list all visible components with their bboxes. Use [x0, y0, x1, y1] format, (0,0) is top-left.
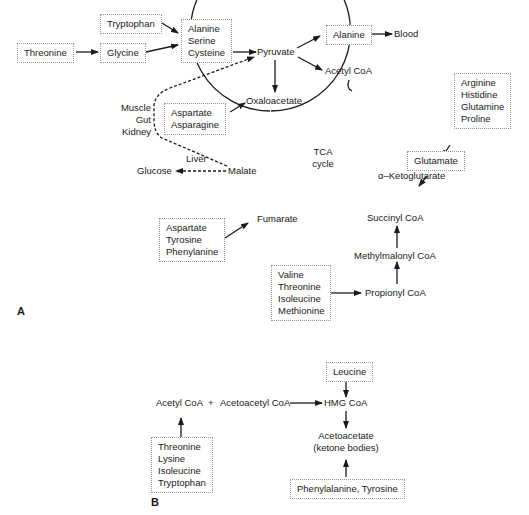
box-aspartate-asparagine: Aspartate Asparagine [164, 103, 226, 135]
label: Tyrosine [166, 234, 218, 246]
node-acetoacetate: Acetoacetate (ketone bodies) [306, 430, 386, 454]
label: Histidine [461, 89, 504, 101]
box-leucine: Leucine [326, 362, 373, 382]
box-arginine-histidine-glutamine-proline: Arginine Histidine Glutamine Proline [454, 73, 511, 129]
label: Threonine [24, 47, 67, 59]
node-acetoacetyl-coa: Acetoacetyl CoA [220, 397, 290, 409]
cycle-label: cycle [308, 158, 338, 170]
panel-label-a: A [17, 305, 25, 317]
box-aspartate-tyrosine-phenylanine: Aspartate Tyrosine Phenylanine [159, 218, 225, 262]
node-oxaloacetate: Oxaloacetate [246, 95, 302, 107]
label: Glycine [107, 47, 139, 59]
node-alpha-ketoglutarate: α–Ketoglutarate [378, 170, 445, 182]
plus-sign: + [208, 397, 214, 409]
node-pyruvate: Pyruvate [257, 46, 295, 58]
tissue-kidney: Kidney [113, 126, 151, 138]
label: Aspartate [171, 107, 219, 119]
label: Tryptophan [107, 18, 155, 30]
box-alanine: Alanine [326, 25, 372, 45]
label: Valine [278, 269, 324, 281]
node-propionyl-coa: Propionyl CoA [365, 287, 426, 299]
label: Alanine [333, 29, 365, 41]
label: Leucine [333, 366, 366, 378]
node-blood: Blood [394, 28, 418, 40]
label: Glutamate [414, 155, 458, 167]
tca-cycle-label: TCA cycle [308, 146, 338, 170]
label-liver: Liver [186, 153, 207, 165]
acetoacetate-label: Acetoacetate [306, 430, 386, 442]
tca-label: TCA [308, 146, 338, 158]
node-b-acetyl-coa: Acetyl CoA [156, 397, 203, 409]
label: Serine [188, 35, 225, 47]
tissue-muscle: Muscle [113, 102, 151, 114]
node-glucose: Glucose [137, 165, 172, 177]
label: Isoleucine [158, 465, 206, 477]
label: Proline [461, 113, 504, 125]
node-fumarate: Fumarate [257, 213, 298, 225]
label: Glutamine [461, 101, 504, 113]
box-tryptophan: Tryptophan [100, 14, 162, 34]
panel-label-b: B [151, 496, 159, 508]
ketone-bodies-label: (ketone bodies) [306, 442, 386, 454]
node-hmg-coa: HMG CoA [324, 397, 367, 409]
label: Phenylalanine, Tyrosine [297, 483, 398, 495]
box-phenylalanine-tyrosine: Phenylalanine, Tyrosine [290, 479, 405, 499]
box-alanine-serine-cysteine: Alanine Serine Cysteine [181, 19, 232, 63]
label: Threonine [158, 441, 206, 453]
box-glycine: Glycine [100, 43, 146, 63]
tissue-gut: Gut [113, 114, 151, 126]
box-glutamate: Glutamate [407, 151, 465, 171]
label: Lysine [158, 453, 206, 465]
box-threonine: Threonine [17, 43, 74, 63]
node-acetyl-coa: Acetyl CoA [325, 65, 372, 77]
label: Asparagine [171, 119, 219, 131]
label: Threonine [278, 281, 324, 293]
label: Aspartate [166, 222, 218, 234]
node-succinyl-coa: Succinyl CoA [367, 212, 424, 224]
label: Methionine [278, 305, 324, 317]
box-valine-threonine-isoleucine-methionine: Valine Threonine Isoleucine Methionine [271, 265, 331, 321]
label: Arginine [461, 77, 504, 89]
label: Isoleucine [278, 293, 324, 305]
label: Alanine [188, 23, 225, 35]
label: Cysteine [188, 47, 225, 59]
label: Phenylanine [166, 246, 218, 258]
label: Tryptophan [158, 477, 206, 489]
diagram-lines [0, 0, 529, 515]
node-methylmalonyl-coa: Methylmalonyl CoA [354, 250, 436, 262]
box-threonine-lysine-isoleucine-tryptophan: Threonine Lysine Isoleucine Tryptophan [151, 437, 213, 493]
node-malate: Malate [228, 165, 257, 177]
tissues-label: Muscle Gut Kidney [113, 102, 151, 138]
